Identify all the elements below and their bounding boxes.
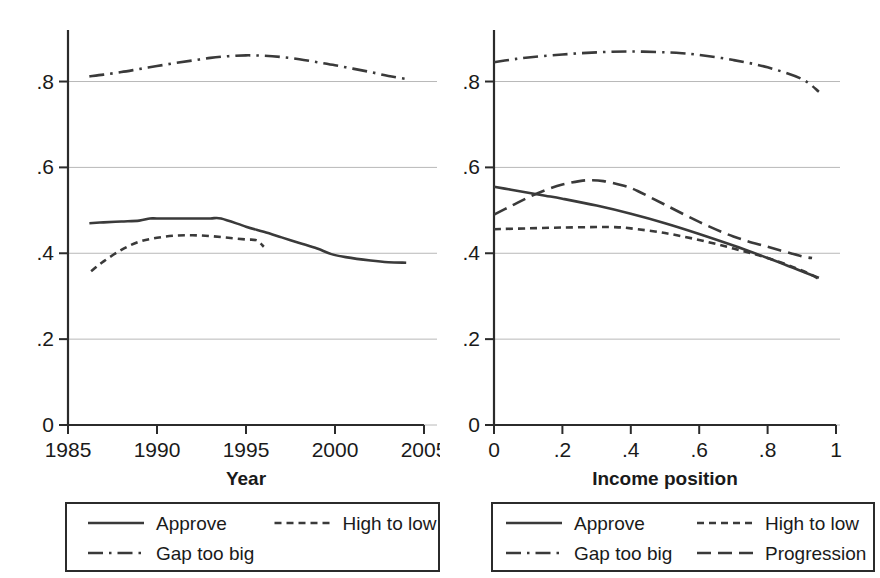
y-tick-label-4: .8 [36,70,54,93]
legend-label: Gap too big [574,543,672,564]
x-tick-label-1: 1990 [134,438,181,461]
x-tick-label-0: 1985 [45,438,92,461]
x-tick-label-2: 1995 [223,438,270,461]
x-tick-label-4: .8 [759,438,777,461]
y-tick-label-0: 0 [42,413,54,436]
legend-label: Gap too big [156,543,254,564]
series-line-approve [89,218,406,263]
x-tick-label-0: 0 [488,438,500,461]
x-tick-label-1: .2 [554,438,572,461]
y-tick-label-0: 0 [468,413,480,436]
x-tick-label-3: 2000 [312,438,359,461]
panel-income-position: 0.2.4.6.80.2.4.6.81Income positionApprov… [440,0,880,578]
y-tick-label-2: .4 [36,241,54,264]
y-tick-label-2: .4 [462,241,480,264]
y-tick-label-4: .8 [462,70,480,93]
figure-two-panel-line-charts: 0.2.4.6.819851990199520002005YearApprove… [0,0,880,578]
x-tick-label-3: .6 [690,438,708,461]
x-tick-label-5: 1 [830,438,842,461]
legend-label: Progression [765,543,866,564]
legend-label: High to low [765,513,859,534]
y-tick-label-1: .2 [462,327,480,350]
legend: ApproveHigh to lowGap too bigProgression [492,503,874,571]
chart-svg-income-position: 0.2.4.6.80.2.4.6.81Income positionApprov… [440,0,880,578]
x-axis-title: Income position [592,468,738,489]
series-line-gap-too-big [494,51,819,91]
panel-year: 0.2.4.6.819851990199520002005YearApprove… [0,0,440,578]
x-tick-label-4: 2005 [401,438,440,461]
x-axis-title: Year [226,468,267,489]
chart-svg-year: 0.2.4.6.819851990199520002005YearApprove… [0,0,440,578]
legend-label: Approve [156,513,227,534]
series-line-gap-too-big [89,55,406,79]
x-tick-label-2: .4 [622,438,640,461]
y-tick-label-1: .2 [36,327,54,350]
y-tick-label-3: .6 [462,155,480,178]
y-tick-label-3: .6 [36,155,54,178]
legend: ApproveHigh to lowGap too big [66,503,439,571]
legend-label: Approve [574,513,645,534]
legend-label: High to low [343,513,437,534]
